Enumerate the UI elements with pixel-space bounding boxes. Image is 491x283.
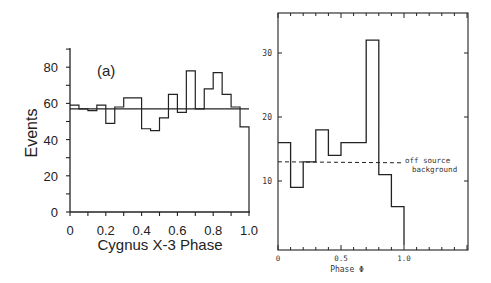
left-x-ticks: 00.20.40.60.81.0 bbox=[66, 212, 258, 238]
right-x-tick-label: 1.0 bbox=[397, 254, 411, 263]
left-y-tick-label: 60 bbox=[44, 96, 58, 111]
background-annotation-line2: background bbox=[412, 165, 457, 174]
background-dashed-line bbox=[278, 162, 402, 163]
left-y-tick-label: 0 bbox=[51, 205, 58, 220]
left-y-tick-label: 80 bbox=[44, 60, 58, 75]
right-x-axis-label: Phase Φ bbox=[330, 265, 364, 274]
right-plot-frame bbox=[278, 13, 468, 250]
right-y-tick-label: 30 bbox=[262, 49, 272, 58]
figure: 020406080 00.20.40.60.81.0 (a) Events Cy… bbox=[0, 0, 491, 283]
right-x-ticks: 00.51.0 bbox=[276, 13, 467, 263]
right-y-tick-label: 10 bbox=[262, 177, 272, 186]
left-y-ticks: 020406080 bbox=[44, 49, 70, 220]
left-x-tick-label: 0 bbox=[66, 223, 73, 238]
background-annotation-line1: off source bbox=[405, 156, 451, 165]
panel-label: (a) bbox=[97, 62, 115, 79]
left-x-axis-label: Cygnus X-3 Phase bbox=[97, 236, 222, 253]
right-y-tick-label: 20 bbox=[262, 113, 272, 122]
left-y-tick-label: 20 bbox=[44, 169, 58, 184]
left-x-tick-label: 1.0 bbox=[240, 223, 258, 238]
left-histogram-steps bbox=[70, 71, 249, 212]
left-y-axis-label: Events bbox=[23, 109, 40, 158]
left-histogram-panel: 020406080 00.20.40.60.81.0 (a) Events Cy… bbox=[23, 48, 258, 253]
right-x-tick-label: 0 bbox=[276, 254, 281, 263]
right-histogram-steps bbox=[278, 40, 404, 245]
left-y-tick-label: 40 bbox=[44, 133, 58, 148]
right-x-tick-label: 0.5 bbox=[334, 254, 348, 263]
right-histogram-panel: 102030 00.51.0 off source background Pha… bbox=[262, 13, 468, 274]
